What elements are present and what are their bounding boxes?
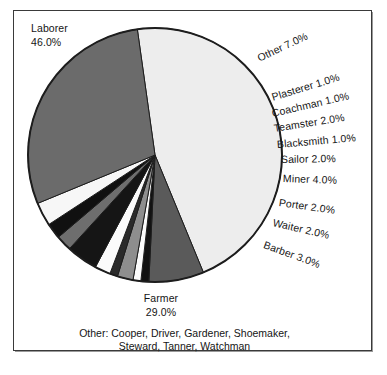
slice-label-laborer: Laborer 46.0% [31,22,68,49]
pie-svg: Laborer 46.0%Other 7.0%Plasterer 1.0%Coa… [0,0,387,375]
slice-label-sailor: Sailor 2.0% [281,152,336,165]
slice-label-laborer-value: 46.0% [31,36,61,48]
pie-slices-group: Laborer 46.0%Other 7.0%Plasterer 1.0%Coa… [28,28,282,282]
slice-label-farmer-value: 29.0% [146,306,176,318]
chart-footnote-line1: Other: Cooper, Driver, Gardener, Shoemak… [79,327,290,339]
slice-label-miner: Miner 4.0% [283,172,338,186]
slice-label-laborer-name: Laborer [31,22,68,34]
chart-footnote-line2: Steward, Tanner, Watchman [62,340,307,353]
slice-label-farmer: Farmer 29.0% [131,292,191,319]
chart-footnote: Other: Cooper, Driver, Gardener, Shoemak… [62,327,307,353]
slice-label-farmer-name: Farmer [144,292,178,304]
pie-chart-figure: Laborer 46.0%Other 7.0%Plasterer 1.0%Coa… [0,0,387,375]
